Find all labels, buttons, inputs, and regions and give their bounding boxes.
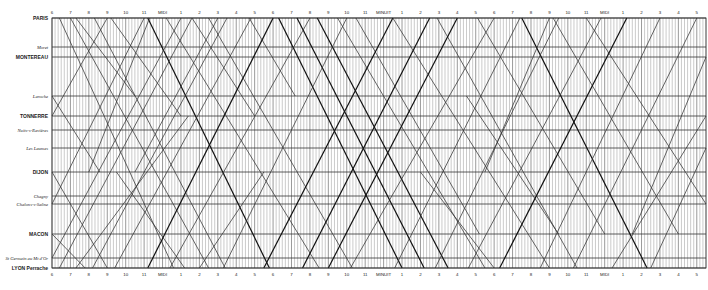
- hour-label-top: 10: [344, 10, 349, 15]
- hour-label-bottom: 8: [309, 272, 312, 277]
- station-label: Nuits-s-Ravières: [17, 128, 49, 133]
- hour-label-bottom: 6: [493, 272, 496, 277]
- northbound-train-line: [468, 18, 601, 268]
- station-label: Moret: [36, 45, 49, 50]
- hour-label-bottom: 5: [253, 272, 256, 277]
- hour-label-bottom: 3: [217, 272, 220, 277]
- hour-label-top: 3: [659, 10, 662, 15]
- hour-label-bottom: 10: [344, 272, 349, 277]
- hour-label-bottom: 7: [69, 272, 72, 277]
- hour-label-top: 9: [548, 10, 551, 15]
- hour-label-bottom: MIDI: [158, 272, 167, 277]
- hour-label-top: 10: [565, 10, 570, 15]
- hour-label-bottom: 9: [327, 272, 330, 277]
- station-label: MONTEREAU: [16, 54, 49, 60]
- station-label: St Germain au Mt d'Or: [5, 256, 48, 261]
- hour-label-top: 8: [88, 10, 91, 15]
- hour-label-top: 3: [217, 10, 220, 15]
- hour-label-top: 4: [235, 10, 238, 15]
- southbound-train-line: [166, 18, 319, 268]
- hour-label-bottom: MIDI: [600, 272, 609, 277]
- hour-label-bottom: 2: [419, 272, 422, 277]
- hour-label-top: 5: [696, 10, 699, 15]
- hour-label-bottom: 4: [235, 272, 238, 277]
- station-label: DIJON: [33, 169, 49, 175]
- hour-label-bottom: 8: [530, 272, 533, 277]
- hour-label-bottom: 5: [696, 272, 699, 277]
- southbound-train-line: [393, 18, 550, 268]
- hour-label-bottom: 3: [438, 272, 441, 277]
- station-label: LYON Perrache: [12, 265, 48, 271]
- hour-label-bottom: 7: [511, 272, 514, 277]
- top-hour-axis: 67891011MIDI1234567891011MINUIT123456789…: [51, 10, 699, 15]
- southbound-train-line: [52, 96, 100, 172]
- southbound-train-line: [586, 18, 706, 204]
- hour-label-top: 5: [253, 10, 256, 15]
- hour-label-bottom: 9: [548, 272, 551, 277]
- hour-label-bottom: 10: [565, 272, 570, 277]
- station-label: Chalons-s-Saône: [17, 202, 48, 207]
- hour-label-top: 11: [142, 10, 147, 15]
- hour-label-bottom: 4: [677, 272, 680, 277]
- hour-label-top: 1: [180, 10, 183, 15]
- hour-label-bottom: 6: [272, 272, 275, 277]
- hour-label-bottom: 1: [622, 272, 625, 277]
- hour-label-bottom: 5: [474, 272, 477, 277]
- hour-label-bottom: 10: [123, 272, 128, 277]
- station-label: TONNERRE: [20, 113, 49, 119]
- hour-label-top: MIDI: [158, 10, 167, 15]
- hour-label-bottom: 7: [290, 272, 293, 277]
- hour-label-top: MINUIT: [376, 10, 391, 15]
- station-labels: PARISMoretMONTEREAULarocheTONNERRENuits-…: [5, 15, 49, 271]
- hour-label-top: 9: [106, 10, 109, 15]
- hour-label-top: 6: [272, 10, 275, 15]
- hour-label-top: 1: [401, 10, 404, 15]
- southbound-train-line: [70, 18, 208, 268]
- hour-label-top: 3: [438, 10, 441, 15]
- hour-label-top: 8: [530, 10, 533, 15]
- hour-label-bottom: 4: [456, 272, 459, 277]
- hour-label-top: 6: [493, 10, 496, 15]
- hour-label-bottom: 11: [584, 272, 589, 277]
- southbound-train-line: [116, 172, 184, 268]
- hour-label-top: 11: [584, 10, 589, 15]
- hour-label-bottom: 8: [88, 272, 91, 277]
- southbound-train-line: [522, 18, 647, 268]
- hour-label-top: 5: [474, 10, 477, 15]
- hour-label-bottom: 2: [640, 272, 643, 277]
- station-label: Chagny: [34, 194, 49, 199]
- hour-label-bottom: 1: [180, 272, 183, 277]
- station-label: MACON: [29, 231, 48, 237]
- hour-label-bottom: 1: [401, 272, 404, 277]
- hour-label-top: 7: [69, 10, 72, 15]
- hour-label-bottom: 3: [659, 272, 662, 277]
- hour-label-bottom: 2: [198, 272, 201, 277]
- bottom-hour-axis: 67891011MIDI1234567891011MINUIT123456789…: [51, 272, 699, 277]
- southbound-train-line: [478, 18, 605, 234]
- northbound-train-line: [170, 18, 310, 268]
- hour-label-top: MIDI: [600, 10, 609, 15]
- station-label: Les Laumes: [25, 146, 48, 151]
- hour-label-bottom: 9: [106, 272, 109, 277]
- hour-label-top: 11: [363, 10, 368, 15]
- southbound-train-line: [111, 18, 181, 116]
- northbound-train-line: [540, 18, 660, 268]
- hour-label-top: 4: [677, 10, 680, 15]
- southbound-train-line: [317, 18, 448, 268]
- hour-label-top: 6: [51, 10, 54, 15]
- station-label: Laroche: [32, 94, 48, 99]
- hour-label-top: 7: [290, 10, 293, 15]
- northbound-train-line: [76, 116, 188, 268]
- hour-label-bottom: 11: [363, 272, 368, 277]
- hour-label-top: 9: [327, 10, 330, 15]
- northbound-train-line: [93, 18, 227, 268]
- northbound-train-line: [199, 172, 263, 268]
- marey-train-schedule-chart: PARISMoretMONTEREAULarocheTONNERRENuits-…: [0, 0, 708, 290]
- hour-label-top: 2: [198, 10, 201, 15]
- hour-label-top: 1: [622, 10, 625, 15]
- northbound-train-line: [485, 18, 549, 172]
- hour-label-bottom: MINUIT: [376, 272, 391, 277]
- station-label: PARIS: [33, 15, 49, 21]
- hour-label-bottom: 11: [142, 272, 147, 277]
- northbound-train-line: [303, 18, 430, 268]
